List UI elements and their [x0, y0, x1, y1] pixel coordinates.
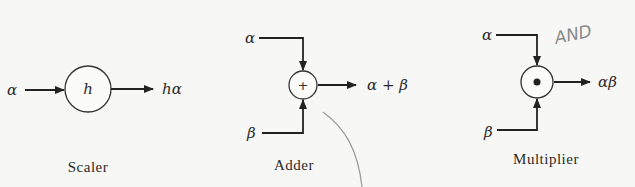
- multiplier-caption: Multiplier: [513, 151, 579, 167]
- signal-flow-diagram: α h hα Scaler α β + α + β Adder α β αβ M…: [0, 0, 635, 187]
- scaler-block: α h hα Scaler: [7, 66, 182, 175]
- scaler-caption: Scaler: [68, 159, 108, 175]
- adder-input-top-arrow: [259, 38, 303, 70]
- scaler-output-label: hα: [162, 80, 182, 98]
- adder-operator: +: [298, 78, 309, 93]
- multiplier-input-bottom-label: β: [483, 123, 493, 141]
- adder-input-bottom-label: β: [246, 124, 256, 142]
- adder-caption: Adder: [274, 157, 314, 173]
- adder-block: α β + α + β Adder: [245, 29, 408, 187]
- handwritten-and-annotation: AND: [552, 21, 594, 49]
- adder-output-label: α + β: [367, 76, 408, 94]
- multiplier-output-label: αβ: [598, 73, 617, 91]
- multiplier-input-bottom-arrow: [497, 99, 537, 130]
- multiplier-block: α β αβ Multiplier AND: [482, 21, 617, 167]
- adder-input-bottom-arrow: [262, 100, 303, 133]
- multiplier-dot-operator: [534, 79, 541, 86]
- scaler-input-label: α: [7, 81, 17, 99]
- adder-input-top-label: α: [245, 29, 255, 47]
- multiplier-input-top-label: α: [482, 26, 492, 44]
- pencil-mark-curve: [323, 112, 362, 187]
- scaler-gain-label: h: [83, 80, 93, 98]
- multiplier-input-top-arrow: [496, 35, 537, 65]
